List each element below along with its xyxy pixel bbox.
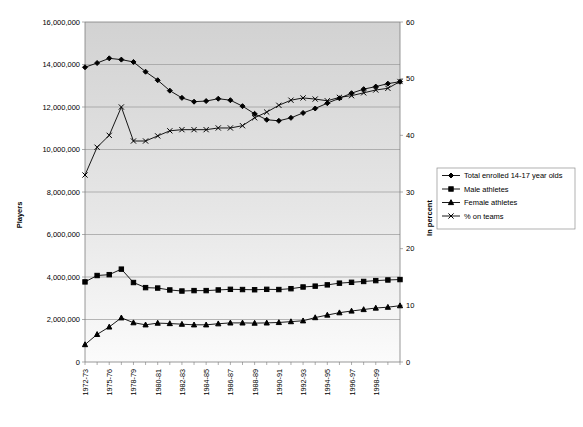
data-point (204, 288, 208, 292)
left-tick-label: 12,000,000 (42, 103, 80, 112)
right-tick-label: 10 (406, 301, 414, 310)
x-tick-label: 1980-81 (154, 369, 163, 395)
x-tick-label: 1998-99 (372, 369, 381, 395)
x-axis-ticks: 1972-731975-761978-791980-811982-831984-… (81, 362, 400, 395)
left-tick-label: 0 (76, 358, 80, 367)
legend-marker-square-icon (449, 187, 453, 191)
data-point (168, 288, 172, 292)
data-point (386, 278, 390, 282)
right-tick-label: 40 (406, 131, 414, 140)
legend[interactable]: Total enrolled 14-17 year oldsMale athle… (437, 168, 575, 229)
legend-label: Total enrolled 14-17 year olds (464, 171, 563, 180)
data-point (252, 288, 256, 292)
data-point (398, 277, 402, 281)
data-point (289, 286, 293, 290)
data-point (361, 279, 365, 283)
right-tick-label: 0 (406, 358, 410, 367)
left-tick-label: 14,000,000 (42, 60, 80, 69)
data-point (192, 288, 196, 292)
data-point (216, 288, 220, 292)
data-point (349, 280, 353, 284)
data-point (155, 286, 159, 290)
data-point (337, 281, 341, 285)
chart-container: 02,000,0004,000,0006,000,0008,000,00010,… (0, 0, 583, 427)
line-chart-svg: 02,000,0004,000,0006,000,0008,000,00010,… (0, 0, 583, 427)
right-tick-label: 30 (406, 188, 414, 197)
data-point (107, 272, 111, 276)
data-point (228, 287, 232, 291)
data-point (143, 285, 147, 289)
right-tick-label: 20 (406, 244, 414, 253)
data-point (301, 285, 305, 289)
data-point (265, 287, 269, 291)
left-tick-label: 4,000,000 (47, 273, 80, 282)
x-tick-label: 1988-89 (251, 369, 260, 395)
data-point (277, 287, 281, 291)
x-tick-label: 1982-83 (178, 369, 187, 395)
left-tick-label: 6,000,000 (47, 230, 80, 239)
right-axis-ticks: 0102030405060 (400, 18, 414, 367)
data-point (180, 289, 184, 293)
data-point (325, 283, 329, 287)
x-tick-label: 1986-87 (226, 369, 235, 395)
left-axis-ticks: 02,000,0004,000,0006,000,0008,000,00010,… (42, 18, 85, 367)
left-tick-label: 2,000,000 (47, 315, 80, 324)
x-tick-label: 1978-79 (129, 369, 138, 395)
x-tick-label: 1992-93 (299, 369, 308, 395)
data-point (131, 280, 135, 284)
data-point (119, 267, 123, 271)
data-point (374, 278, 378, 282)
x-tick-label: 1972-73 (81, 369, 90, 395)
x-tick-label: 1994-95 (323, 369, 332, 395)
left-axis-title: Players (15, 202, 24, 229)
data-point (83, 280, 87, 284)
right-tick-label: 50 (406, 74, 414, 83)
x-tick-label: 1975-76 (105, 369, 114, 395)
right-axis-title: In percent (425, 200, 434, 236)
x-tick-label: 1996-97 (348, 369, 357, 395)
legend-label: Female athletes (464, 198, 518, 207)
legend-label: Male athletes (464, 185, 509, 194)
right-tick-label: 60 (406, 18, 414, 27)
left-tick-label: 8,000,000 (47, 188, 80, 197)
x-tick-label: 1990-91 (275, 369, 284, 395)
x-tick-label: 1984-85 (202, 369, 211, 395)
left-tick-label: 10,000,000 (42, 145, 80, 154)
left-tick-label: 16,000,000 (42, 18, 80, 27)
legend-label: % on teams (464, 212, 504, 221)
data-point (95, 273, 99, 277)
data-point (240, 287, 244, 291)
data-point (313, 284, 317, 288)
